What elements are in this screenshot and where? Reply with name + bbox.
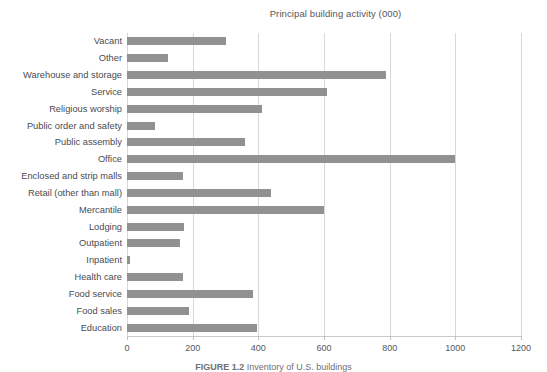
category-label: Food service [69, 289, 122, 299]
bar [127, 54, 168, 62]
bar [127, 189, 271, 197]
category-label: Inpatient [86, 255, 122, 265]
gridline [521, 33, 522, 336]
bar [127, 88, 327, 96]
bar [127, 138, 245, 146]
category-label: Warehouse and storage [23, 70, 122, 80]
chart-row: Food sales [127, 302, 521, 319]
category-label: Vacant [94, 36, 122, 46]
chart-row: Health care [127, 269, 521, 286]
x-axis-tick-label: 1000 [435, 343, 475, 353]
chart-row: Office [127, 151, 521, 168]
x-axis-tick-label: 1200 [501, 343, 541, 353]
chart-row: Inpatient [127, 252, 521, 269]
x-axis-tick [258, 336, 259, 340]
chart-row: Public assembly [127, 134, 521, 151]
bar [127, 256, 130, 264]
chart-row: Education [127, 319, 521, 336]
chart-row: Warehouse and storage [127, 67, 521, 84]
category-label: Food sales [77, 306, 122, 316]
x-axis-tick-label: 600 [304, 343, 344, 353]
bar [127, 122, 155, 130]
category-label: Lodging [89, 222, 122, 232]
chart-row: Other [127, 50, 521, 67]
chart-row: Public order and safety [127, 117, 521, 134]
figure-caption-text: Inventory of U.S. buildings [247, 362, 352, 372]
category-label: Enclosed and strip malls [21, 171, 122, 181]
category-label: Health care [74, 272, 122, 282]
chart-row: Retail (other than mall) [127, 185, 521, 202]
chart-row: Food service [127, 286, 521, 303]
bar [127, 324, 257, 332]
category-label: Public assembly [55, 137, 122, 147]
x-axis-tick [127, 336, 128, 340]
x-axis-tick-label: 200 [173, 343, 213, 353]
category-label: Religious worship [49, 104, 122, 114]
category-label: Other [99, 53, 122, 63]
x-axis-tick [193, 336, 194, 340]
x-axis-tick [455, 336, 456, 340]
bar [127, 155, 455, 163]
category-label: Service [91, 87, 122, 97]
bar [127, 172, 183, 180]
category-label: Education [81, 323, 122, 333]
bar [127, 273, 183, 281]
x-axis-tick-label: 800 [370, 343, 410, 353]
bar [127, 37, 226, 45]
chart-row: Mercantile [127, 201, 521, 218]
category-label: Public order and safety [27, 121, 122, 131]
figure-container: Principal building activity (000) Vacant… [0, 0, 547, 372]
x-axis-tick-label: 400 [238, 343, 278, 353]
bar [127, 206, 324, 214]
category-label: Mercantile [79, 205, 122, 215]
chart-row: Religious worship [127, 100, 521, 117]
bar [127, 290, 253, 298]
category-label: Outpatient [79, 238, 122, 248]
x-axis-tick [324, 336, 325, 340]
bar [127, 239, 180, 247]
category-label: Office [98, 154, 122, 164]
chart-row: Outpatient [127, 235, 521, 252]
plot-area: VacantOtherWarehouse and storageServiceR… [127, 33, 521, 336]
bar [127, 307, 189, 315]
x-axis-tick [390, 336, 391, 340]
chart-row: Enclosed and strip malls [127, 168, 521, 185]
chart-row: Service [127, 84, 521, 101]
chart-row: Vacant [127, 33, 521, 50]
bar [127, 105, 262, 113]
category-label: Retail (other than mall) [28, 188, 122, 198]
bar [127, 223, 184, 231]
chart-title: Principal building activity (000) [62, 8, 547, 19]
figure-caption-label: FIGURE 1.2 [195, 362, 244, 372]
x-axis-tick-label: 0 [107, 343, 147, 353]
x-axis-tick [521, 336, 522, 340]
bar [127, 71, 386, 79]
chart-row: Lodging [127, 218, 521, 235]
figure-caption: FIGURE 1.2 Inventory of U.S. buildings [0, 362, 547, 372]
